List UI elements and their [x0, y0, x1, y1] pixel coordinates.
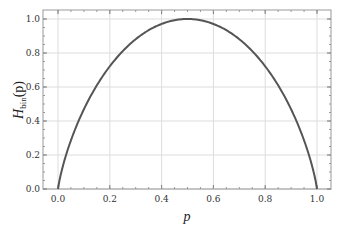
- y-tick-label: 1.0: [26, 14, 41, 24]
- x-tick-label: 0.8: [258, 194, 273, 204]
- chart: 0.00.20.40.60.81.0 0.00.20.40.60.81.0 p …: [0, 0, 339, 230]
- tick-marks: [43, 10, 331, 189]
- svg-text:Hbin(p): Hbin(p): [11, 81, 28, 120]
- y-tick-label: 0.4: [26, 116, 41, 126]
- y-tick-label: 0.8: [26, 48, 41, 58]
- plot-frame: [43, 10, 331, 189]
- x-tick-labels: 0.00.20.40.60.81.0: [51, 194, 325, 204]
- x-tick-label: 0.0: [51, 194, 66, 204]
- x-axis-label: p: [183, 209, 191, 224]
- x-tick-label: 0.6: [206, 194, 221, 204]
- x-tick-label: 0.2: [103, 194, 117, 204]
- y-tick-label: 0.6: [26, 82, 41, 92]
- y-tick-label: 0.2: [26, 150, 40, 160]
- x-tick-label: 1.0: [310, 194, 325, 204]
- y-tick-label: 0.0: [26, 184, 41, 194]
- entropy-curve: [58, 19, 317, 189]
- grid-lines: [43, 10, 331, 189]
- x-tick-label: 0.4: [154, 194, 169, 204]
- y-axis-label: Hbin(p): [11, 81, 28, 120]
